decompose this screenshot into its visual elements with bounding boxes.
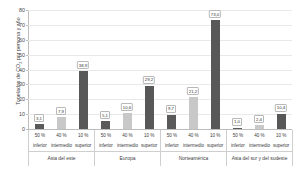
x-axis-percent-row: 50 %40 %10 % xyxy=(161,130,226,140)
x-axis-category-label: intermedio xyxy=(51,140,73,151)
bar: 10,6 xyxy=(123,113,132,129)
y-axis-tick-label: 10 xyxy=(19,111,25,117)
bar: 38,9 xyxy=(79,71,88,129)
y-axis-tick-label: 30 xyxy=(19,81,25,87)
x-axis-percent-row: 50 %40 %10 % xyxy=(95,130,160,140)
x-axis-group-label: Asia del sur y del sudeste xyxy=(227,151,292,165)
x-axis-percent-label: 50 % xyxy=(227,130,249,140)
x-axis-category-label: intermedio xyxy=(183,140,205,151)
x-axis-category-label: superior xyxy=(270,140,292,151)
bar: 1,0 xyxy=(233,128,242,129)
plot-area: 01020304050607080 3,17,938,95,110,629,29… xyxy=(28,10,292,130)
bar-series: 3,17,938,95,110,629,29,721,273,01,02,410… xyxy=(28,10,292,130)
bar-value-label: 2,4 xyxy=(254,115,264,123)
y-axis-tick-label: 70 xyxy=(19,22,25,28)
x-axis-group: 50 %40 %10 %inferiorintermediosuperiorAs… xyxy=(226,130,293,166)
x-axis-percent-row: 50 %40 %10 % xyxy=(227,130,292,140)
bar: 73,0 xyxy=(211,20,220,129)
y-axis-tick-label: 40 xyxy=(19,67,25,73)
bar: 10,4 xyxy=(277,114,286,129)
x-axis-percent-label: 10 % xyxy=(204,130,226,140)
x-axis-category-label: superior xyxy=(138,140,160,151)
y-axis-tick-label: 0 xyxy=(22,126,25,132)
bar-value-label: 38,9 xyxy=(77,61,89,69)
bar-value-label: 9,7 xyxy=(166,105,176,113)
x-axis-percent-label: 10 % xyxy=(72,130,94,140)
x-axis-category-label: superior xyxy=(72,140,94,151)
x-axis-percent-label: 50 % xyxy=(29,130,51,140)
x-axis-group-label: Asia del este xyxy=(29,151,94,165)
bar-value-label: 1,0 xyxy=(232,118,242,126)
x-axis-percent-label: 10 % xyxy=(138,130,160,140)
x-axis-percent-label: 40 % xyxy=(183,130,205,140)
bar: 5,1 xyxy=(101,121,110,129)
bar-value-label: 7,9 xyxy=(56,107,66,115)
bar: 29,2 xyxy=(145,86,154,129)
x-axis-category-table: 50 %40 %10 %inferiorintermediosuperiorAs… xyxy=(28,130,292,166)
x-axis-name-row: inferiorintermediosuperior xyxy=(29,140,94,151)
x-axis-group-label: Europa xyxy=(95,151,160,165)
x-axis-percent-row: 50 %40 %10 % xyxy=(29,130,94,140)
x-axis-percent-label: 50 % xyxy=(161,130,183,140)
x-axis-category-label: intermedio xyxy=(249,140,271,151)
y-axis-tick-label: 60 xyxy=(19,37,25,43)
x-axis-name-row: inferiorintermediosuperior xyxy=(95,140,160,151)
bar: 21,2 xyxy=(189,97,198,129)
x-axis-percent-label: 40 % xyxy=(51,130,73,140)
y-axis-tick-label: 20 xyxy=(19,96,25,102)
x-axis-percent-label: 40 % xyxy=(117,130,139,140)
bar-chart: Toneladas de CO2 por persona y año 01020… xyxy=(0,0,298,174)
x-axis-percent-label: 40 % xyxy=(249,130,271,140)
y-axis-title: Toneladas de CO2 por persona y año xyxy=(15,1,23,121)
x-axis-percent-label: 50 % xyxy=(95,130,117,140)
bar-value-label: 10,6 xyxy=(121,103,133,111)
bar-value-label: 3,1 xyxy=(34,114,44,122)
x-axis-group-label: Norteamérica xyxy=(161,151,226,165)
x-axis-name-row: inferiorintermediosuperior xyxy=(227,140,292,151)
x-axis-name-row: inferiorintermediosuperior xyxy=(161,140,226,151)
bar-value-label: 73,0 xyxy=(209,10,221,18)
bar-value-label: 21,2 xyxy=(187,87,199,95)
bar: 9,7 xyxy=(167,115,176,129)
x-axis-category-label: superior xyxy=(204,140,226,151)
x-axis-category-label: inferior xyxy=(29,140,51,151)
x-axis-category-label: inferior xyxy=(227,140,249,151)
bar: 7,9 xyxy=(57,117,66,129)
bar-value-label: 5,1 xyxy=(100,111,110,119)
x-axis-group: 50 %40 %10 %inferiorintermediosuperiorNo… xyxy=(160,130,227,166)
bar-value-label: 29,2 xyxy=(143,76,155,84)
x-axis-category-label: inferior xyxy=(161,140,183,151)
bar: 2,4 xyxy=(255,125,264,129)
bar-value-label: 10,4 xyxy=(275,104,287,112)
x-axis-percent-label: 10 % xyxy=(270,130,292,140)
x-axis-group: 50 %40 %10 %inferiorintermediosuperiorAs… xyxy=(28,130,95,166)
x-axis-category-label: intermedio xyxy=(117,140,139,151)
x-axis-category-label: inferior xyxy=(95,140,117,151)
y-axis-tick-label: 50 xyxy=(19,52,25,58)
x-axis-group: 50 %40 %10 %inferiorintermediosuperiorEu… xyxy=(94,130,161,166)
y-axis-tick-label: 80 xyxy=(19,7,25,13)
bar: 3,1 xyxy=(35,124,44,129)
